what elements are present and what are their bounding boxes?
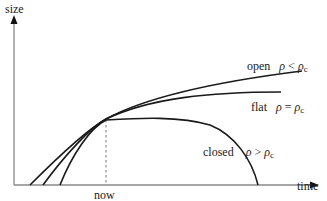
flat-condition-lhs: ρ: [276, 100, 282, 114]
open-condition-sub: c: [304, 64, 308, 74]
closed-condition-lhs: ρ: [246, 145, 252, 159]
closed-condition-op: >: [254, 145, 261, 159]
y-axis: [11, 15, 18, 185]
curve-label-closed: closed ρ > ρc: [203, 146, 274, 160]
flat-name: flat: [251, 100, 267, 114]
closed-name: closed: [203, 145, 234, 159]
x-axis-label: time: [297, 180, 318, 192]
closed-condition-sub: c: [270, 150, 274, 160]
y-axis-label: size: [5, 3, 24, 15]
curve-open: [30, 71, 302, 185]
y-axis-arrow-icon: [11, 15, 18, 24]
now-label: now: [94, 189, 115, 201]
open-condition-op: <: [288, 59, 295, 73]
curve-label-open: open ρ < ρc: [247, 60, 308, 74]
open-name: open: [247, 59, 270, 73]
flat-condition-sub: c: [300, 105, 304, 115]
flat-condition-op: =: [285, 100, 292, 114]
curve-label-flat: flat ρ = ρc: [251, 101, 304, 115]
x-axis: [14, 182, 319, 189]
open-condition-lhs: ρ: [279, 59, 285, 73]
